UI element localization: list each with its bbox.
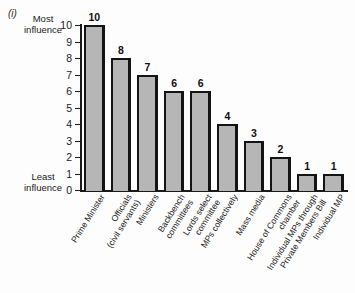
bar-value-label: 1 bbox=[331, 160, 337, 172]
y-axis-tick-label: 1 bbox=[66, 169, 72, 179]
y-axis-tick-label: 8 bbox=[66, 53, 72, 63]
bar-value-label: 3 bbox=[251, 127, 257, 139]
y-axis-tick bbox=[75, 141, 81, 142]
axis-anchor-least-influence: Least influence bbox=[12, 172, 74, 193]
y-axis-tick bbox=[75, 75, 81, 76]
bar bbox=[323, 174, 344, 192]
y-axis-tick bbox=[75, 91, 81, 92]
y-axis-tick-label: 9 bbox=[66, 37, 72, 47]
bar bbox=[270, 157, 291, 191]
y-axis-tick-label: 6 bbox=[66, 86, 72, 96]
bar-value-label: 6 bbox=[198, 77, 204, 89]
bar bbox=[244, 141, 265, 192]
x-axis-category-label: Ministers bbox=[134, 193, 160, 227]
y-axis-tick bbox=[75, 157, 81, 158]
bar bbox=[190, 91, 211, 191]
figure-panel: (i) Most influence Least influence 01234… bbox=[0, 0, 355, 293]
y-axis-tick bbox=[75, 108, 81, 109]
y-axis-tick-label: 0 bbox=[66, 185, 72, 195]
y-axis-tick bbox=[75, 58, 81, 59]
y-axis-tick bbox=[75, 174, 81, 175]
bar-value-label: 6 bbox=[171, 77, 177, 89]
y-axis-tick bbox=[75, 25, 81, 26]
axis-anchor-least-text: Least influence bbox=[24, 171, 62, 193]
bar bbox=[297, 174, 318, 192]
y-axis-tick bbox=[75, 124, 81, 125]
axis-anchor-most-text: Most influence bbox=[24, 13, 62, 35]
y-axis-tick bbox=[75, 190, 81, 191]
y-axis-tick-label: 10 bbox=[60, 20, 72, 30]
bar-value-label: 8 bbox=[118, 44, 124, 56]
y-axis-tick-label: 3 bbox=[66, 136, 72, 146]
bar bbox=[111, 58, 132, 191]
bar bbox=[164, 91, 185, 191]
bar bbox=[217, 124, 238, 191]
y-axis-tick bbox=[75, 42, 81, 43]
y-axis-tick-label: 5 bbox=[66, 103, 72, 113]
y-axis-tick-label: 4 bbox=[66, 119, 72, 129]
bar-value-label: 7 bbox=[145, 61, 151, 73]
bar-value-label: 4 bbox=[224, 110, 230, 122]
bar-value-label: 2 bbox=[278, 143, 284, 155]
bar-value-label: 10 bbox=[88, 11, 100, 23]
y-axis-tick-label: 2 bbox=[66, 152, 72, 162]
y-axis-tick-label: 7 bbox=[66, 70, 72, 80]
bar bbox=[137, 75, 158, 192]
bar bbox=[84, 25, 105, 191]
plot-area: 012345678910 10876643211 bbox=[81, 25, 347, 190]
bar-value-label: 1 bbox=[304, 160, 310, 172]
